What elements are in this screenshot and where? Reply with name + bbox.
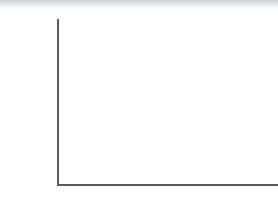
y-axis-title [13,0,43,170]
chart-screenshot [0,0,278,224]
series-line [57,14,278,185]
plot-area [57,14,278,185]
